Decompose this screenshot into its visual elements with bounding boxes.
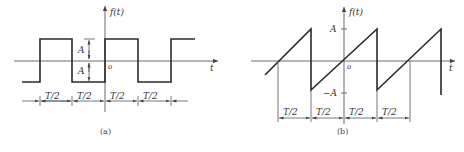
- y-tick-lower-label: −A: [323, 88, 338, 98]
- dim-label-a-2: T/2: [77, 91, 92, 101]
- dim-label-a-4: T/2: [143, 91, 158, 101]
- y-tick-upper-label: A: [329, 24, 337, 34]
- dim-label-a-1: T/2: [45, 91, 60, 101]
- dim-label-b-4: T/2: [382, 107, 397, 117]
- dim-label-b-1: T/2: [283, 107, 298, 117]
- caption-a: (a): [100, 127, 111, 136]
- dim-label-b-2: T/2: [316, 107, 331, 117]
- figure-a-square-wave: A A f(t) t o T/2 T/2 T/2 T/2 (a): [14, 6, 218, 136]
- origin-label-a: o: [108, 63, 112, 71]
- amplitude-lower-label: A: [77, 66, 85, 76]
- figure-canvas: A A f(t) t o T/2 T/2 T/2 T/2 (a): [0, 0, 464, 152]
- figure-b-sawtooth-wave: A −A f(t) t o T/2 T/2 T/2 T/2: [251, 7, 455, 136]
- y-axis-label-a: f(t): [109, 7, 124, 17]
- x-axis-label-a: t: [210, 63, 214, 73]
- caption-b: (b): [337, 127, 348, 136]
- dim-label-b-3: T/2: [349, 107, 364, 117]
- amplitude-upper-label: A: [77, 45, 85, 55]
- x-axis-label-b: t: [449, 63, 453, 73]
- amplitude-marker-a: [84, 39, 95, 81]
- dim-label-a-3: T/2: [110, 91, 125, 101]
- origin-label-b: o: [347, 63, 351, 71]
- y-axis-label-b: f(t): [348, 7, 363, 17]
- sawtooth-curve: [265, 29, 441, 95]
